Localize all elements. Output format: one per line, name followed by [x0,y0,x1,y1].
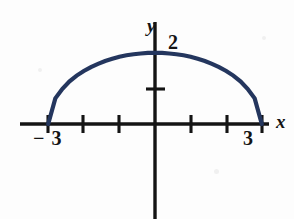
x-value-label-negative-3: − 3 [33,128,62,148]
x-axis-label: x [276,112,286,131]
graph-figure: y x 2 3 − 3 [0,0,294,219]
y-axis-label: y [147,16,155,35]
y-value-label-2: 2 [168,32,178,52]
x-value-label-3: 3 [243,128,253,148]
